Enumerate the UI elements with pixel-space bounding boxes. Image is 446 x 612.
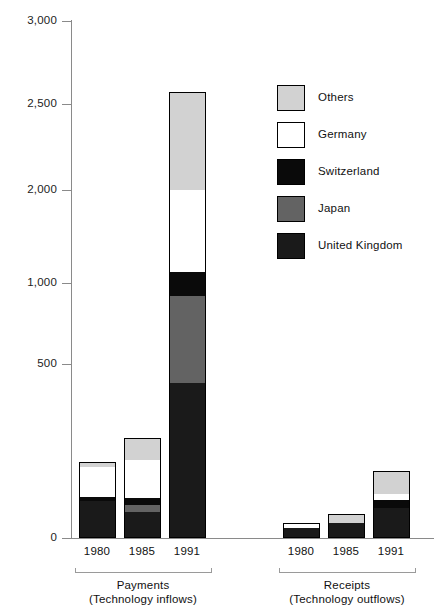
- group-tick: [211, 568, 212, 573]
- bar-segment: [283, 523, 320, 528]
- legend-swatch: [277, 159, 305, 185]
- x-axis-label-receipts-1991: 1991: [363, 545, 419, 557]
- x-axis-line: [71, 538, 434, 539]
- group-sublabel-payments: (Technology inflows): [75, 592, 211, 606]
- bar-segment: [79, 467, 116, 497]
- y-axis-tick-label: 3,000: [5, 15, 57, 27]
- bar-segment: [328, 514, 365, 523]
- group-rule-payments: [75, 572, 211, 573]
- group-sublabel-receipts: (Technology outflows): [279, 592, 415, 606]
- bar-segment: [124, 505, 161, 512]
- y-axis-tick-label: 500: [5, 358, 57, 370]
- group-tick: [75, 568, 76, 573]
- bar-segment: [169, 92, 206, 190]
- y-axis-tick-label: 2,000: [5, 184, 57, 196]
- group-tick: [415, 568, 416, 573]
- bar-segment: [124, 498, 161, 505]
- bar-segment: [79, 462, 116, 467]
- bar-segment: [169, 296, 206, 383]
- y-axis-tick: [62, 21, 71, 22]
- y-axis-tick-label: 0: [5, 532, 57, 544]
- bar-segment: [373, 500, 410, 508]
- y-axis-tick-label: 2,500: [5, 98, 57, 110]
- bar-segment: [283, 528, 320, 538]
- x-axis-label-payments-1991: 1991: [159, 545, 215, 557]
- legend-label: Switzerland: [318, 164, 380, 178]
- bar-segment: [169, 383, 206, 538]
- bar-segment: [169, 272, 206, 296]
- bar-segment: [373, 494, 410, 500]
- y-axis-tick: [62, 190, 71, 191]
- y-axis-tick: [62, 364, 71, 365]
- legend-label: United Kingdom: [318, 238, 403, 252]
- bar-segment: [79, 497, 116, 501]
- legend-swatch: [277, 196, 305, 222]
- group-rule-receipts: [279, 572, 415, 573]
- bar-segment: [124, 438, 161, 460]
- legend-label: Japan: [318, 201, 350, 215]
- legend-swatch: [277, 85, 305, 111]
- bar-segment: [373, 508, 410, 538]
- y-axis-tick: [62, 538, 71, 539]
- legend-swatch: [277, 233, 305, 259]
- bar-segment: [79, 501, 116, 538]
- legend-label: Germany: [318, 127, 367, 141]
- bar-segment: [169, 190, 206, 272]
- y-axis-tick: [62, 104, 71, 105]
- y-axis-tick: [62, 283, 71, 284]
- y-axis-line: [71, 20, 72, 539]
- legend-label: Others: [318, 90, 354, 104]
- bar-segment: [124, 460, 161, 498]
- y-axis-tick-label: 1,000: [5, 277, 57, 289]
- group-label-payments: Payments: [75, 578, 211, 592]
- legend-swatch: [277, 122, 305, 148]
- group-label-receipts: Receipts: [279, 578, 415, 592]
- bar-segment: [373, 471, 410, 494]
- bar-segment: [124, 512, 161, 538]
- group-tick: [279, 568, 280, 573]
- stacked-bar-chart: 05001,0002,0002,5003,000 198019851991198…: [0, 0, 446, 612]
- bar-segment: [328, 523, 365, 538]
